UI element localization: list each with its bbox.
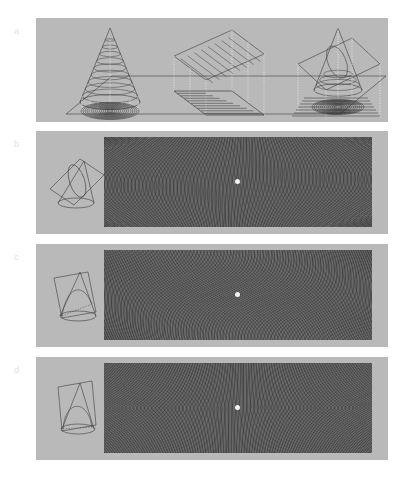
moire-center-point-d bbox=[235, 405, 240, 410]
tilted-grating-plane bbox=[174, 30, 264, 115]
panel-a bbox=[36, 18, 388, 122]
hyperbolic-moire-field-b bbox=[104, 137, 372, 227]
panel-b bbox=[36, 131, 388, 234]
moire-center-point-b bbox=[235, 179, 240, 184]
panel-a-illustration bbox=[36, 18, 388, 122]
panel-label-c: c bbox=[14, 253, 19, 262]
cone-cut-hyperbola-inset bbox=[58, 381, 96, 434]
grating-projection bbox=[174, 91, 264, 115]
ellipse-moire-projection bbox=[292, 98, 380, 116]
panel-c bbox=[36, 244, 388, 347]
moire-center-point-c bbox=[235, 292, 240, 297]
panel-label-d: d bbox=[14, 366, 19, 375]
panel-label-b: b bbox=[14, 140, 19, 149]
panel-label-a: a bbox=[14, 27, 19, 36]
elliptical-moire-field-c bbox=[104, 250, 372, 340]
conic-sections-figure: a b bbox=[0, 0, 405, 503]
cone-cut-parabola-inset bbox=[54, 272, 96, 321]
bowtie-moire-field-d bbox=[104, 363, 372, 453]
cone-cut-ellipse-inset bbox=[50, 159, 104, 208]
panel-d bbox=[36, 357, 388, 460]
